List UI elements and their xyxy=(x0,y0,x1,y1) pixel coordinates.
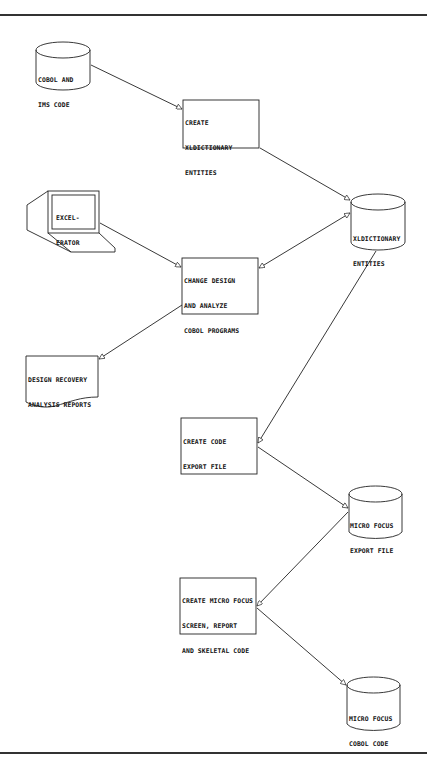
create-micro-focus-label: CREATE MICRO FOCUS SCREEN, REPORT AND SK… xyxy=(182,580,253,664)
label-line: COBOL PROGRAMS xyxy=(184,327,239,335)
label-line: XLDICTIONARY xyxy=(353,235,400,243)
label-line: ENTITIES xyxy=(185,169,232,177)
xldictionary-entities-label: XLDICTIONARY ENTITIES xyxy=(353,218,400,277)
label-line: CREATE MICRO FOCUS xyxy=(182,597,253,605)
create-xldictionary-label: CREATE XLDICTIONARY ENTITIES xyxy=(185,102,232,186)
create-code-export-label: CREATE CODE EXPORT FILE xyxy=(183,421,226,480)
edge-create-export-to-mf-export xyxy=(258,447,348,508)
label-line: CHANGE DESIGN xyxy=(184,277,239,285)
edge-xld-entities-to-create-export xyxy=(258,251,376,443)
micro-focus-cobol-label: MICRO FOCUS COBOL CODE xyxy=(349,698,392,757)
excelerator-label: EXCEL- ERATOR xyxy=(56,197,80,256)
edge-change-design-xld-entities xyxy=(259,213,350,268)
label-line: COBOL AND xyxy=(38,76,74,84)
cobol-ims-code-label: COBOL AND IMS CODE xyxy=(38,59,74,118)
label-line: IMS CODE xyxy=(38,101,74,109)
label-line: EXPORT FILE xyxy=(350,547,393,555)
edge-create-xld-to-xld-entities xyxy=(260,148,350,200)
label-line: DESIGN RECOVERY xyxy=(28,376,91,384)
label-line: COBOL CODE xyxy=(349,740,392,748)
design-recovery-label: DESIGN RECOVERY ANALYSIS REPORTS xyxy=(28,359,91,418)
label-line: SCREEN, REPORT xyxy=(182,622,253,630)
label-line: ENTITIES xyxy=(353,260,400,268)
label-line: AND ANALYZE xyxy=(184,302,239,310)
label-line: EXCEL- xyxy=(56,214,80,222)
label-line: CREATE xyxy=(185,119,232,127)
label-line: EXPORT FILE xyxy=(183,463,226,471)
label-line: ANALYSIS REPORTS xyxy=(28,401,91,409)
edge-create-mf-to-mf-cobol xyxy=(257,608,346,685)
label-line: XLDICTIONARY xyxy=(185,144,232,152)
change-design-label: CHANGE DESIGN AND ANALYZE COBOL PROGRAMS xyxy=(184,260,239,344)
label-line: CREATE CODE xyxy=(183,438,226,446)
edge-change-design-to-reports xyxy=(99,305,182,359)
micro-focus-export-label: MICRO FOCUS EXPORT FILE xyxy=(350,505,393,564)
edge-mf-export-to-create-mf xyxy=(257,512,348,606)
label-line: ERATOR xyxy=(56,239,80,247)
label-line: MICRO FOCUS xyxy=(349,715,392,723)
label-line: AND SKELETAL CODE xyxy=(182,647,253,655)
edge-cobol-to-create-xld xyxy=(91,65,182,109)
label-line: MICRO FOCUS xyxy=(350,522,393,530)
